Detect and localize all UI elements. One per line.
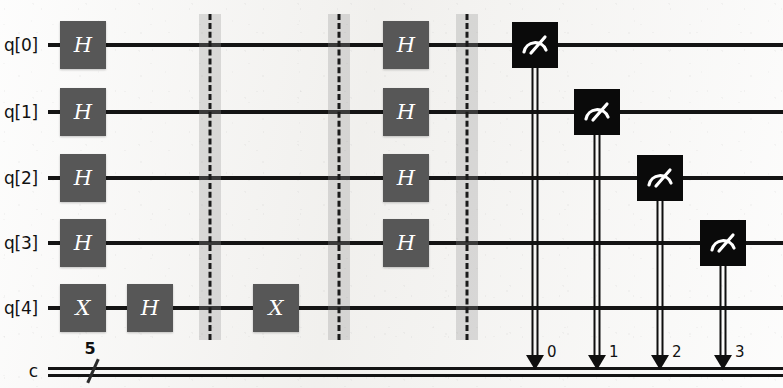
- gate-x-q4-6[interactable]: X: [253, 284, 299, 332]
- measure-classical-line-0: [532, 68, 539, 363]
- classical-register-slash: [86, 359, 99, 384]
- measure-arrow-2: [651, 355, 669, 370]
- qubit-label-4: q[4]: [4, 298, 38, 318]
- classical-register-size-label: 5: [84, 339, 95, 358]
- meter-icon: [520, 32, 550, 58]
- measure-arrow-1: [588, 355, 606, 370]
- gate-h-q3-3[interactable]: H: [60, 219, 106, 267]
- clbit-index-label-3: 3: [735, 343, 745, 361]
- gate-h-q0-7[interactable]: H: [383, 21, 429, 69]
- barrier-0: [209, 14, 212, 340]
- measure-arrow-0: [526, 355, 544, 370]
- measure-gate-q3[interactable]: [700, 220, 746, 266]
- meter-icon: [582, 99, 612, 125]
- meter-icon: [645, 165, 675, 191]
- clbit-index-label-0: 0: [547, 343, 557, 361]
- classical-wire-line-0: [48, 367, 783, 370]
- gate-h-q1-8[interactable]: H: [383, 88, 429, 136]
- measure-classical-line-2: [657, 201, 664, 363]
- qubit-label-0: q[0]: [4, 35, 38, 55]
- gate-h-q4-5[interactable]: H: [127, 284, 173, 332]
- measure-arrow-3: [714, 355, 732, 370]
- gate-h-q3-10[interactable]: H: [383, 219, 429, 267]
- clbit-index-label-1: 1: [609, 343, 619, 361]
- qubit-label-2: q[2]: [4, 168, 38, 188]
- measure-classical-line-1: [594, 135, 601, 363]
- barrier-1: [338, 14, 341, 340]
- gate-h-q2-2[interactable]: H: [60, 154, 106, 202]
- gate-h-q0-0[interactable]: H: [60, 21, 106, 69]
- quantum-circuit-diagram: q[0]q[1]q[2]q[3]q[4]c5HHHHXHXHHHH0123: [0, 0, 783, 388]
- measure-gate-q1[interactable]: [574, 89, 620, 135]
- barrier-2: [466, 14, 469, 340]
- classical-wire-line-1: [48, 374, 783, 377]
- measure-classical-line-3: [720, 266, 727, 363]
- qubit-label-1: q[1]: [4, 102, 38, 122]
- measure-gate-q2[interactable]: [637, 155, 683, 201]
- measure-gate-q0[interactable]: [512, 22, 558, 68]
- clbit-index-label-2: 2: [672, 343, 682, 361]
- classical-register-label: c: [29, 361, 38, 381]
- qubit-label-3: q[3]: [4, 233, 38, 253]
- gate-h-q1-1[interactable]: H: [60, 88, 106, 136]
- meter-icon: [708, 230, 738, 256]
- gate-h-q2-9[interactable]: H: [383, 154, 429, 202]
- gate-x-q4-4[interactable]: X: [60, 284, 106, 332]
